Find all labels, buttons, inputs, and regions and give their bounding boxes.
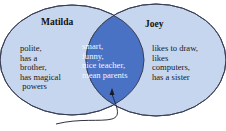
- matilda-only-traits: polite, has a brother, has magical power…: [20, 44, 61, 92]
- shared-traits: smart, funny, nice teacher, mean parents: [82, 42, 128, 80]
- joey-title: Joey: [145, 19, 163, 29]
- joey-only-traits: likes to draw, likes computers, has a si…: [152, 44, 198, 82]
- matilda-title: Matilda: [41, 17, 73, 27]
